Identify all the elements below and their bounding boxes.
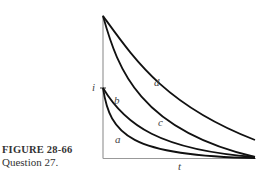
figure-subtitle: Question 27. [2,156,72,169]
curve-label-a: a [115,133,121,145]
y-axis-label: i [92,81,95,93]
curve-label-c: c [158,116,163,128]
x-axis-label: t [178,160,182,172]
figure-number: FIGURE 28-66 [2,143,72,156]
curve-c [103,16,255,157]
curve-label-b: b [114,94,120,106]
figure-caption: FIGURE 28-66 Question 27. [2,143,72,169]
curve-d [103,16,255,140]
curve-label-d: d [154,76,160,88]
